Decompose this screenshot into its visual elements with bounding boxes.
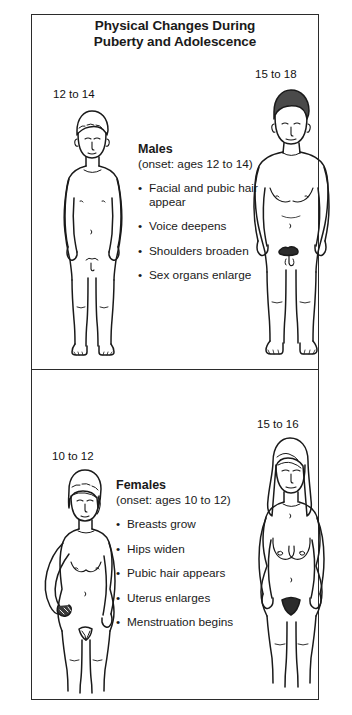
title-line-1: Physical Changes During <box>95 18 256 33</box>
page-title: Physical Changes During Puberty and Adol… <box>31 18 319 49</box>
list-item-label: Pubic hair appears <box>127 566 225 580</box>
list-item: • Shoulders broaden <box>138 245 283 259</box>
list-item-label: Sex organs enlarge <box>149 268 251 282</box>
females-onset: (onset: ages 10 to 12) <box>116 493 281 507</box>
bullet-icon: • <box>116 592 120 606</box>
list-item: • Breasts grow <box>116 518 281 532</box>
bullet-icon: • <box>116 543 120 557</box>
males-heading: Males <box>138 142 283 156</box>
list-item-label: Hips widen <box>127 542 185 556</box>
bullet-icon: • <box>116 616 120 630</box>
bullet-icon: • <box>138 220 142 234</box>
age-label-female-young: 10 to 12 <box>52 450 94 462</box>
list-item-label: Facial and pubic hair appear <box>149 181 258 209</box>
list-item-label: Menstruation begins <box>127 615 233 629</box>
age-label-male-young: 12 to 14 <box>53 88 95 100</box>
age-label-female-older: 15 to 16 <box>257 418 299 430</box>
bullet-icon: • <box>138 269 142 283</box>
section-divider <box>32 369 318 370</box>
list-item: • Hips widen <box>116 543 281 557</box>
title-line-2: Puberty and Adolescence <box>31 34 319 50</box>
bullet-icon: • <box>116 567 120 581</box>
age-label-male-older: 15 to 18 <box>255 68 297 80</box>
list-item: • Facial and pubic hair appear <box>138 182 283 209</box>
females-heading: Females <box>116 478 281 492</box>
males-bullet-list: • Facial and pubic hair appear • Voice d… <box>138 182 283 283</box>
males-text-block: Males (onset: ages 12 to 14) • Facial an… <box>138 142 283 294</box>
females-text-block: Females (onset: ages 10 to 12) • Breasts… <box>116 478 281 641</box>
list-item: • Sex organs enlarge <box>138 269 283 283</box>
figure-male-young <box>44 102 140 360</box>
list-item-label: Shoulders broaden <box>149 244 249 258</box>
bullet-icon: • <box>116 518 120 532</box>
males-onset: (onset: ages 12 to 14) <box>138 157 283 171</box>
list-item-label: Voice deepens <box>149 219 226 233</box>
list-item: • Uterus enlarges <box>116 592 281 606</box>
list-item-label: Breasts grow <box>127 517 196 531</box>
bullet-icon: • <box>138 182 142 196</box>
list-item: • Voice deepens <box>138 220 283 234</box>
bullet-icon: • <box>138 245 142 259</box>
list-item: • Pubic hair appears <box>116 567 281 581</box>
females-bullet-list: • Breasts grow • Hips widen • Pubic hair… <box>116 518 281 630</box>
list-item: • Menstruation begins <box>116 616 281 630</box>
list-item-label: Uterus enlarges <box>127 591 210 605</box>
poster-canvas: Physical Changes During Puberty and Adol… <box>0 0 352 715</box>
